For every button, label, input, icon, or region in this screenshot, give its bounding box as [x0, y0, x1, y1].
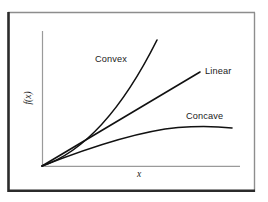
label-convex: Convex [95, 54, 127, 64]
y-axis-label: f(x) [23, 91, 34, 104]
figure-container: Convex Linear Concave x f(x) [0, 0, 268, 202]
page-background [0, 0, 268, 202]
function-shapes-chart: Convex Linear Concave x f(x) [0, 0, 268, 202]
label-linear: Linear [205, 66, 231, 76]
x-axis-label: x [136, 169, 142, 179]
label-concave: Concave [186, 111, 223, 121]
